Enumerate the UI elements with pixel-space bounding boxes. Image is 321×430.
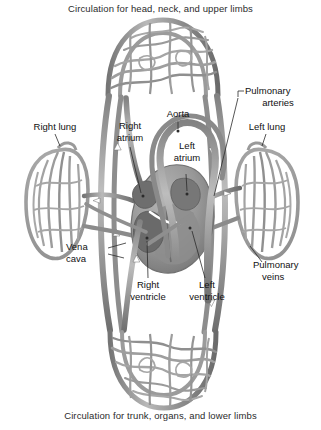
label-left-lung: Left lung — [228, 121, 306, 133]
caption-lower-circulation: Circulation for trunk, organs, and lower… — [0, 410, 321, 421]
lower-capillary-bed — [110, 332, 216, 408]
figure-canvas: Circulation for head, neck, and upper li… — [0, 0, 321, 430]
label-right-lung: Right lung — [14, 121, 96, 133]
label-aorta: Aorta — [152, 108, 204, 120]
circulation-diagram — [0, 0, 321, 430]
upper-capillary-bed — [108, 20, 218, 96]
